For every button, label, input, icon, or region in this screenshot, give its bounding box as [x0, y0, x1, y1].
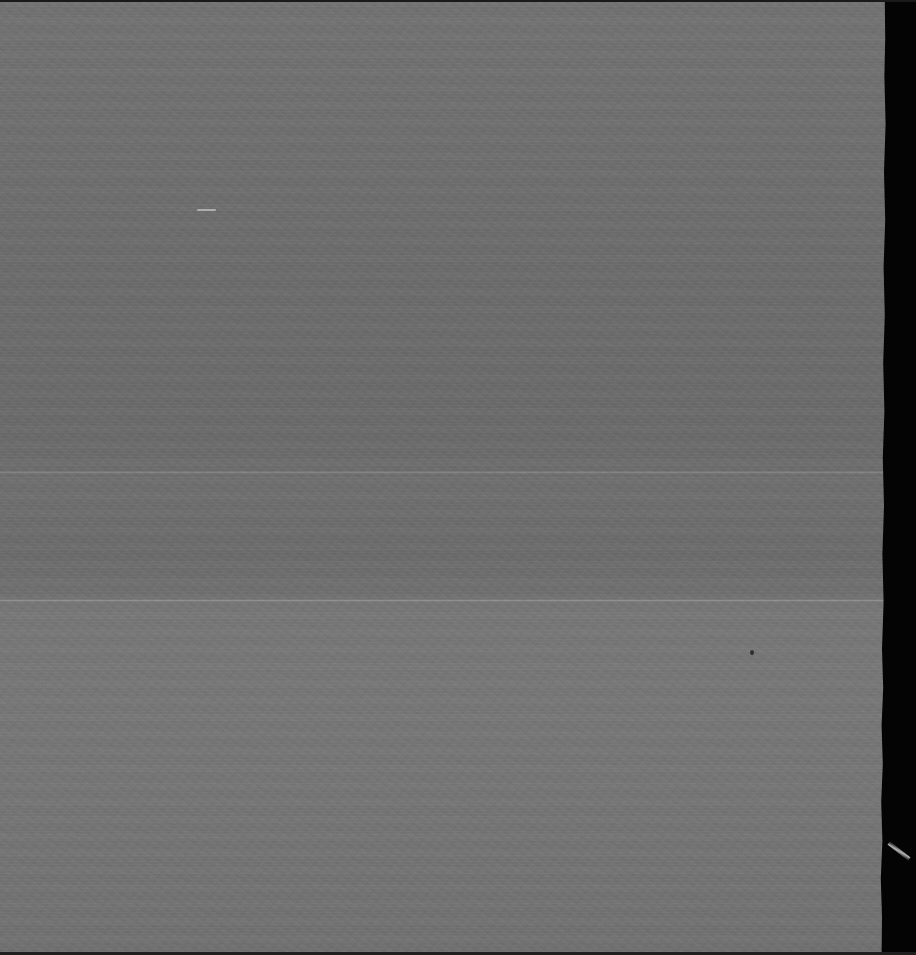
lower-gray-field: [0, 600, 888, 955]
diagonal-scratch-artifact: [888, 841, 911, 860]
image-frame: Near-uniform mid-gray scanned film frame…: [0, 0, 916, 955]
upper-gray-field: [0, 0, 893, 600]
